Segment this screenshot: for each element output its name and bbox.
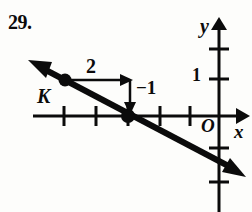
rise-value-label: −1	[136, 78, 156, 97]
line-arrowhead-upper-left-icon	[28, 60, 52, 78]
x-axis-label: x	[234, 122, 244, 141]
point-k-label: K	[37, 86, 50, 106]
origin-label: O	[201, 116, 215, 135]
y-axis-arrowhead-icon	[211, 17, 227, 30]
line-arrowhead-lower-right-icon	[222, 158, 246, 177]
y-tick-label-one: 1	[192, 66, 201, 84]
point-x-intercept-dot	[121, 109, 135, 123]
run-value-label: 2	[86, 56, 96, 76]
point-k-dot	[59, 74, 72, 87]
y-axis-label: y	[200, 16, 209, 36]
figure-page: 29.	[0, 0, 252, 212]
